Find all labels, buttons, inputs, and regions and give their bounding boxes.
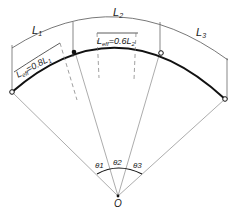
curved-beam-diagram: L1 L2 L3 Leff=0.8L1 Leff=0.6L2 θ1 θ2 θ3 … [0, 0, 238, 209]
label-eff-length-2: Leff=0.6L2 [97, 36, 135, 47]
support-pin-icon [159, 51, 164, 56]
rigid-joint-icon [72, 50, 77, 55]
label-center-O: O [114, 198, 122, 209]
label-theta2: θ2 [113, 158, 122, 167]
support-pin-icon [223, 97, 228, 102]
label-L2: L2 [113, 6, 123, 19]
label-theta3: θ3 [133, 161, 142, 170]
label-L3: L3 [196, 26, 206, 39]
support-pin-icon [10, 90, 15, 95]
label-theta1: θ1 [95, 161, 104, 170]
center-point-icon [117, 195, 120, 198]
label-L1: L1 [32, 24, 42, 37]
